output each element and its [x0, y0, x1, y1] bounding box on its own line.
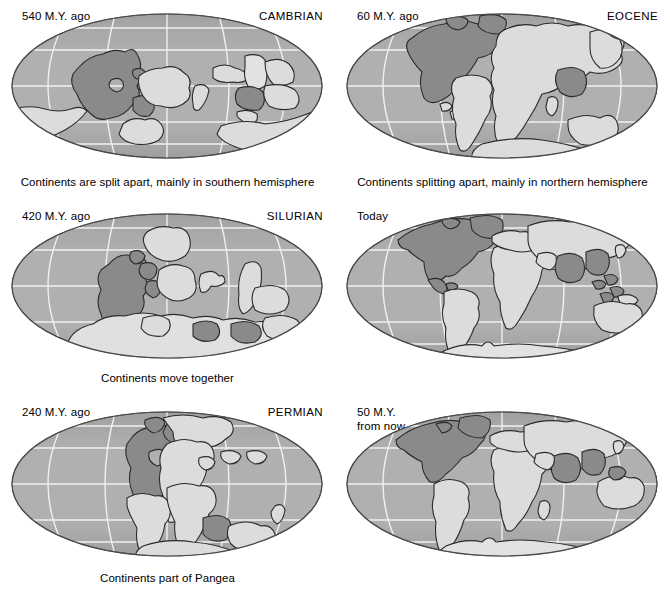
panel-caption: Continents part of Pangea — [0, 572, 335, 584]
panel-today: Today — [335, 200, 670, 396]
globe-map-future — [342, 410, 662, 558]
globe-map-silurian — [7, 212, 327, 360]
panel-permian: 240 M.Y. ago PERMIAN — [0, 396, 335, 599]
panel-caption: Continents splitting apart, mainly in no… — [335, 176, 670, 188]
panel-future: 50 M.Y. from now — [335, 396, 670, 599]
continental-drift-figure: 540 M.Y. ago CAMBRIAN — [0, 0, 670, 599]
globe-map-eocene — [342, 12, 662, 160]
panel-eocene: 60 M.Y. ago EOCENE — [335, 0, 670, 200]
globe-map-cambrian — [7, 12, 327, 160]
panel-cambrian: 540 M.Y. ago CAMBRIAN — [0, 0, 335, 200]
panel-caption: Continents are split apart, mainly in so… — [0, 176, 335, 188]
globe-map-permian — [7, 410, 327, 558]
globe-map-today — [342, 212, 662, 360]
panel-caption: Continents move together — [0, 372, 335, 384]
panel-silurian: 420 M.Y. ago SILURIAN — [0, 200, 335, 396]
